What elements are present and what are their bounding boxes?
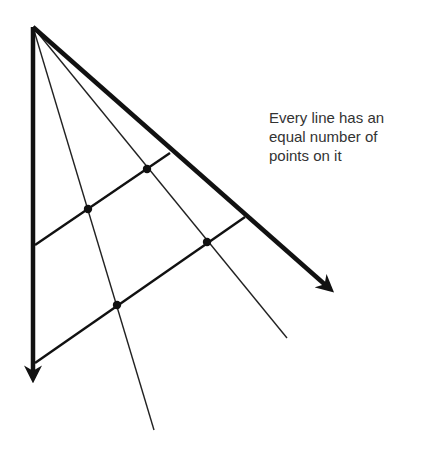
point-dot: [203, 238, 211, 246]
point-dot: [84, 205, 92, 213]
ray-steep-line: [33, 27, 154, 430]
caption-text: Every line has an equal number of points…: [269, 108, 444, 165]
point-dot: [143, 165, 151, 173]
caption-line-2: equal number of: [269, 127, 444, 146]
ray-shallow-line: [33, 27, 287, 338]
crossbar-lower-line: [35, 217, 245, 363]
caption-line-1: Every line has an: [269, 108, 444, 127]
diagram-canvas: [0, 0, 444, 457]
point-dot: [113, 301, 121, 309]
caption-line-3: points on it: [269, 146, 444, 165]
